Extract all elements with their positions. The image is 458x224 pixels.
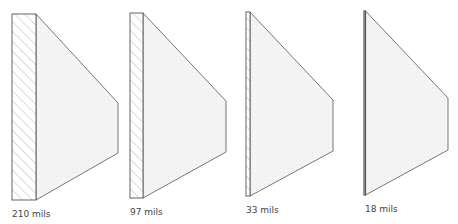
hatched-plate [246,12,250,196]
plate-figure-97-mils [130,13,226,198]
spread-trapezoid [36,14,118,200]
mil-thickness-diagram [0,0,458,224]
thickness-label: 210 mils [12,209,51,219]
plate-figure-210-mils [12,14,118,200]
thickness-label: 97 mils [130,207,163,217]
hatched-plate [364,11,366,195]
thickness-label: 33 mils [246,205,279,215]
hatched-plate [12,14,36,200]
spread-trapezoid [250,12,333,196]
plate-figure-18-mils [364,11,448,195]
plate-figure-33-mils [246,12,333,196]
spread-trapezoid [366,11,449,195]
hatched-plate [130,13,143,198]
thickness-label: 18 mils [365,204,398,214]
spread-trapezoid [143,13,226,198]
